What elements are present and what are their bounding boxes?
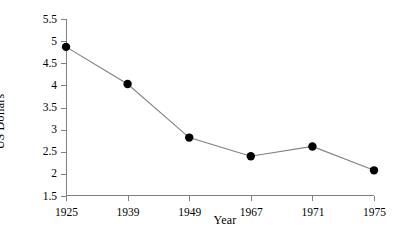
y-tick-label: 5.5 [43,14,57,26]
data-point [247,152,255,160]
line-chart-figure: US Dollars 1.522.533.544.555.5 192519391… [0,0,394,243]
y-tick-label: 5 [51,36,57,48]
y-tick-label: 2 [51,169,57,181]
data-point [185,133,193,141]
y-tick-label: 3 [51,124,57,136]
x-axis-title: Year [66,213,384,228]
data-series-1 [66,19,374,196]
y-tick-label: 2.5 [43,147,57,159]
series-markers [62,43,378,175]
y-tick-label: 4 [51,80,57,92]
x-tick: 1975 [374,196,375,201]
data-point [308,142,316,150]
series-line [66,47,374,170]
x-tick: 1925 [66,196,67,201]
y-tick-label: 4.5 [43,58,57,70]
x-tick: 1971 [312,196,313,201]
data-point [62,43,70,51]
data-point [370,166,378,174]
x-tick: 1939 [128,196,129,201]
x-tick: 1967 [251,196,252,201]
y-tick-label: 1.5 [43,191,57,203]
x-tick: 1949 [189,196,190,201]
y-tick-label: 3.5 [43,102,57,114]
data-point [123,80,131,88]
plot-area: 1.522.533.544.555.5 19251939194919671971… [66,19,374,196]
